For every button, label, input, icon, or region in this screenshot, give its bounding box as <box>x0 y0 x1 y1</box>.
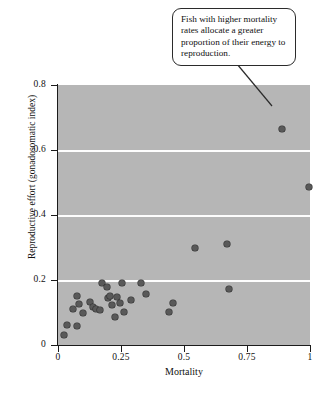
y-axis-tick-label: 0.4 <box>0 209 46 219</box>
data-point <box>104 284 110 290</box>
y-axis-tick-label: 0.2 <box>0 274 46 284</box>
x-axis-tick-label: 1 <box>290 352 328 362</box>
y-axis-tick <box>51 215 58 216</box>
data-point <box>119 280 125 286</box>
y-axis-tick <box>51 85 58 86</box>
data-point <box>109 302 115 308</box>
data-point <box>306 184 312 190</box>
x-axis-tick <box>58 345 59 352</box>
data-point <box>226 286 232 292</box>
y-axis-title: Reproductive effort (gonadosomatic index… <box>27 57 37 297</box>
data-point <box>80 310 86 316</box>
y-axis-tick-label: 0.6 <box>0 144 46 154</box>
x-axis-tick <box>121 345 122 352</box>
data-point <box>279 126 285 132</box>
gridline <box>58 280 310 282</box>
data-point <box>224 241 230 247</box>
x-axis-tick <box>184 345 185 352</box>
data-point <box>192 245 198 251</box>
data-point <box>61 332 67 338</box>
data-point <box>97 307 103 313</box>
y-axis-tick <box>51 345 58 346</box>
data-point <box>112 314 118 320</box>
gridline <box>58 150 310 152</box>
y-axis-tick-label: 0.8 <box>0 79 46 89</box>
x-axis-tick <box>310 345 311 352</box>
data-point <box>166 309 172 315</box>
scatter-plot-figure: 00.20.40.60.800.250.50.751 Reproductive … <box>0 0 328 395</box>
data-point <box>74 323 80 329</box>
data-point <box>114 294 120 300</box>
x-axis-tick-label: 0.25 <box>101 352 141 362</box>
x-axis-tick-label: 0 <box>38 352 78 362</box>
y-axis-tick <box>51 280 58 281</box>
data-point <box>76 301 82 307</box>
data-point <box>74 293 80 299</box>
x-axis-tick-label: 0.5 <box>164 352 204 362</box>
x-axis-tick-label: 0.75 <box>227 352 267 362</box>
data-point <box>170 300 176 306</box>
y-axis-tick-label: 0 <box>0 339 46 349</box>
data-point <box>70 306 76 312</box>
y-axis-tick <box>51 150 58 151</box>
x-axis-tick <box>247 345 248 352</box>
data-point <box>117 300 123 306</box>
x-axis-title: Mortality <box>58 366 310 377</box>
data-point <box>121 309 127 315</box>
data-point <box>143 291 149 297</box>
data-point <box>128 297 134 303</box>
plot-area <box>58 85 310 345</box>
data-point <box>64 322 70 328</box>
data-point <box>138 280 144 286</box>
callout-annotation: Fish with higher mortality rates allocat… <box>172 8 296 66</box>
data-point <box>107 293 113 299</box>
gridline <box>58 215 310 217</box>
